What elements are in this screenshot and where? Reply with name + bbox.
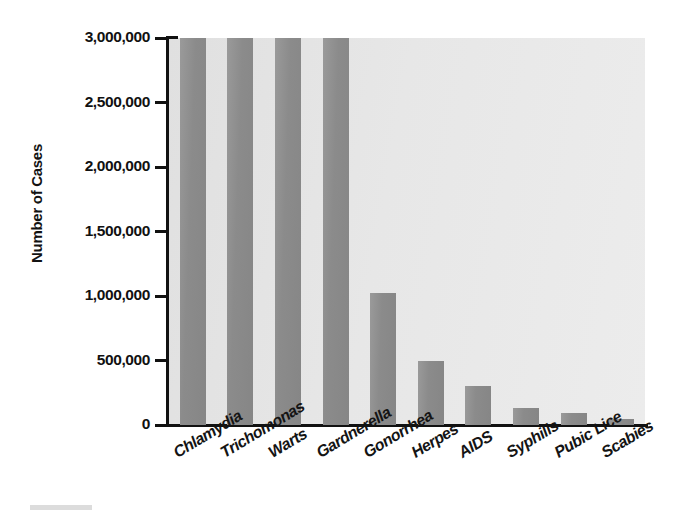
bar (180, 38, 206, 425)
bar (513, 408, 539, 425)
caption-rule (30, 505, 92, 510)
bar-series (169, 38, 645, 425)
bar (465, 386, 491, 425)
bar (608, 419, 634, 425)
bar (561, 413, 587, 425)
bar (323, 38, 349, 425)
y-axis-tick-label: 3,000,000 (10, 28, 150, 46)
bar (370, 293, 396, 425)
bar-chart-figure: Number of Cases 3,000,0002,500,0002,000,… (0, 0, 675, 519)
bar (275, 38, 301, 425)
bar (227, 38, 253, 425)
y-axis-tick-label: 2,500,000 (10, 93, 150, 111)
x-axis-tick-label: AIDS (456, 428, 496, 462)
y-axis-tick-labels: 3,000,0002,500,0002,000,0001,500,0001,00… (8, 0, 150, 519)
y-axis-tick (155, 295, 168, 298)
y-axis-tick-label: 1,000,000 (10, 286, 150, 304)
y-axis-tick (155, 230, 168, 233)
y-axis-tick (155, 37, 168, 40)
y-axis-tick (155, 101, 168, 104)
y-axis-tick-label: 2,000,000 (10, 157, 150, 175)
y-axis-tick (155, 424, 168, 427)
y-axis-tick-label: 0 (10, 415, 150, 433)
bar (418, 361, 444, 426)
x-axis-tick-label: Warts (265, 425, 310, 462)
y-axis-tick (155, 359, 168, 362)
y-axis-tick (155, 166, 168, 169)
y-axis-tick-label: 1,500,000 (10, 222, 150, 240)
y-axis-tick-label: 500,000 (10, 351, 150, 369)
